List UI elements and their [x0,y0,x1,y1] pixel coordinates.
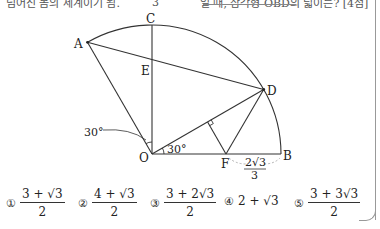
angle-arc-bottom [162,148,164,154]
arc-ACB [88,25,282,154]
choice-5[interactable]: ⑤ 3 + 3√32 [294,188,360,218]
choice-marker: ④ [224,195,234,208]
label-angle-left: 30° [84,126,104,139]
choice-denominator: 2 [186,203,194,218]
choice-marker: ① [6,197,16,210]
choice-numerator: 3 + 2√3 [164,188,216,203]
label-E: E [141,64,150,78]
label-fb-num: 2√3 [245,156,266,169]
choice-marker: ③ [150,197,160,210]
choice-numerator: 4 + √3 [92,188,137,203]
choice-marker: ② [78,197,88,210]
label-angle-bottom: 30° [167,143,187,156]
segment-FD [226,90,264,155]
label-F: F [221,157,229,171]
choice-3[interactable]: ③ 3 + 2√32 [150,188,216,218]
choice-2[interactable]: ② 4 + √32 [78,188,137,218]
choice-text: 2 + √3 [238,194,279,208]
label-C: C [146,12,155,26]
choice-numerator: 3 + 3√3 [308,188,360,203]
brace-left [229,158,246,164]
choice-marker: ⑤ [294,197,304,210]
angle-leader-left [103,130,146,140]
choice-denominator: 2 [110,203,118,218]
label-O: O [139,151,149,165]
label-fb-den: 3 [251,169,258,182]
choice-denominator: 2 [38,203,46,218]
choice-1[interactable]: ① 3 + √32 [6,188,65,218]
brace-right [264,158,280,164]
label-A: A [73,37,83,51]
choice-numerator: 3 + √3 [20,188,65,203]
label-B: B [283,149,292,163]
segment-F-perp [208,122,226,154]
label-D: D [267,84,277,98]
point-A [86,41,89,44]
choice-4[interactable]: ④ 2 + √3 [224,194,279,208]
answer-choices: ① 3 + √32 ② 4 + √32 ③ 3 + 2√32 ④ 2 + √3 … [6,188,366,224]
segment-AD [88,42,264,89]
choice-denominator: 2 [330,203,338,218]
point-D [262,88,265,91]
angle-arc-left [146,142,152,144]
